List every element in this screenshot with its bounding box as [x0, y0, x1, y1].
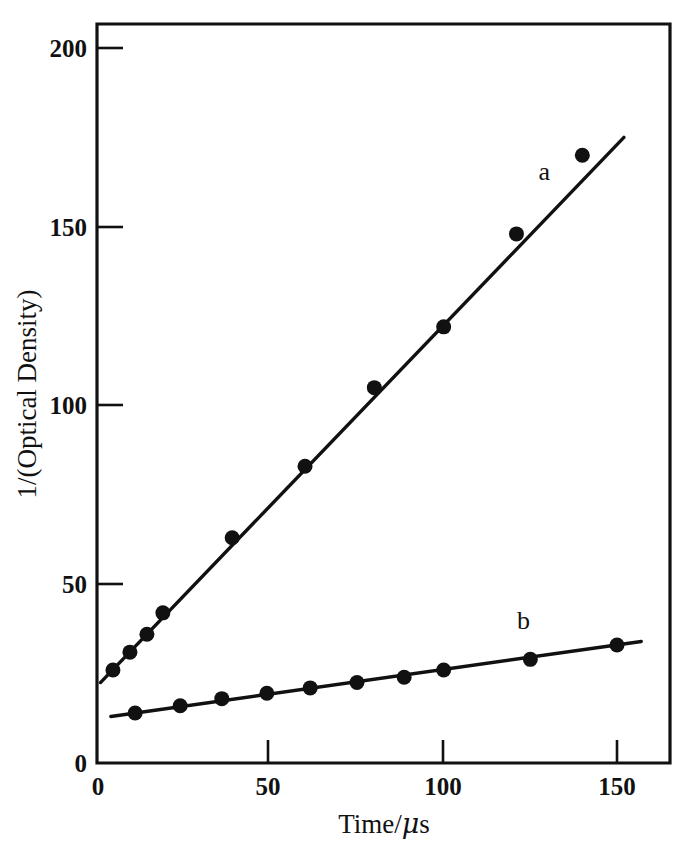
data-point — [303, 680, 318, 695]
data-point — [523, 652, 538, 667]
x-tick-label-100: 100 — [424, 773, 462, 800]
series-a-fit-line — [100, 137, 623, 682]
y-axis-tick-labels: 200 150 100 50 0 — [50, 35, 88, 777]
x-tick-label-0: 0 — [92, 773, 105, 800]
data-point — [122, 645, 137, 660]
data-point — [128, 705, 143, 720]
data-point — [575, 148, 590, 163]
x-tick-label-150: 150 — [598, 773, 636, 800]
data-point — [509, 226, 524, 241]
x-axis-title-suffix: s — [419, 809, 430, 839]
y-axis-title: 1/(Optical Density) — [12, 289, 42, 498]
data-point — [214, 691, 229, 706]
plot-frame — [97, 24, 670, 763]
data-point — [259, 686, 274, 701]
y-axis-ticks — [97, 48, 123, 584]
data-point — [350, 675, 365, 690]
x-axis-ticks — [268, 740, 617, 763]
data-point — [367, 380, 382, 395]
data-point — [105, 663, 120, 678]
series-label-a: a — [538, 157, 550, 186]
x-tick-label-50: 50 — [256, 773, 281, 800]
data-point — [436, 319, 451, 334]
data-point — [155, 605, 170, 620]
data-point — [298, 459, 313, 474]
y-tick-label-0: 0 — [75, 750, 88, 777]
y-tick-label-50: 50 — [62, 571, 87, 598]
data-point — [173, 698, 188, 713]
data-point — [139, 627, 154, 642]
data-point — [397, 670, 412, 685]
figure-container: 200 150 100 50 0 0 50 100 150 1/(Optical… — [0, 0, 692, 843]
data-point — [610, 638, 625, 653]
x-axis-title-unit: μ — [402, 808, 420, 839]
data-point — [436, 663, 451, 678]
series-a — [100, 137, 623, 682]
series-label-b: b — [517, 606, 530, 635]
x-axis-tick-labels: 0 50 100 150 — [92, 773, 636, 800]
data-point — [225, 530, 240, 545]
y-tick-label-150: 150 — [50, 214, 88, 241]
scatter-plot: 200 150 100 50 0 0 50 100 150 1/(Optical… — [0, 0, 692, 843]
series-b — [111, 638, 641, 721]
x-axis-title-prefix: Time/ — [338, 809, 402, 839]
y-tick-label-200: 200 — [50, 35, 88, 62]
y-tick-label-100: 100 — [50, 392, 88, 419]
x-axis-title: Time/μs — [338, 808, 430, 839]
series-b-fit-line — [111, 641, 641, 716]
